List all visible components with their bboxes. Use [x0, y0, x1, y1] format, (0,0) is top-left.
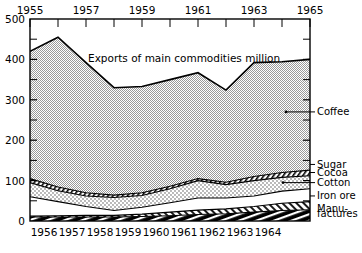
x-tick-label-top: 1955 — [17, 4, 44, 16]
x-tick-label-bottom: 1956 — [31, 226, 58, 238]
x-tick-label-bottom: 1959 — [115, 226, 142, 238]
x-tick-label-bottom: 1964 — [255, 226, 282, 238]
x-tick-label-top: 1963 — [241, 4, 268, 16]
legend-label-factures: factures — [317, 208, 358, 219]
x-tick-label-bottom: 1962 — [199, 226, 226, 238]
x-tick-label-top: 1965 — [297, 4, 324, 16]
x-tick-label-top: 1957 — [73, 4, 100, 16]
legend-label-ironore: Iron ore — [317, 190, 356, 201]
legend-label-coffee: Coffee — [317, 106, 349, 117]
legend-label-cotton: Cotton — [317, 177, 350, 188]
plot-area — [30, 37, 310, 221]
leader-dot-coffee — [285, 111, 288, 114]
y-tick-label: 200 — [5, 134, 25, 146]
x-tick-label-bottom: 1960 — [143, 226, 170, 238]
y-tick-label: 400 — [5, 53, 25, 65]
x-tick-label-top: 1961 — [185, 4, 212, 16]
x-tick-label-bottom: 1957 — [59, 226, 86, 238]
leader-dot-cotton — [282, 181, 285, 184]
exports-area-chart: 0100200300400500195519571959196119631965… — [0, 0, 362, 253]
x-tick-label-bottom: 1963 — [227, 226, 254, 238]
chart-title: Exports of main commodities million — [88, 52, 280, 64]
x-tick-label-bottom: 1961 — [171, 226, 198, 238]
y-tick-label: 300 — [5, 94, 25, 106]
y-tick-label: 0 — [18, 215, 25, 227]
x-tick-label-top: 1959 — [129, 4, 156, 16]
chart-canvas: 0100200300400500195519571959196119631965… — [0, 0, 362, 253]
y-tick-label: 100 — [5, 175, 25, 187]
x-tick-label-bottom: 1958 — [87, 226, 114, 238]
